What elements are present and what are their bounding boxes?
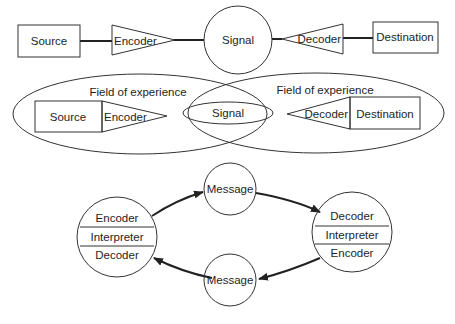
- left-encoder-label: Encoder: [96, 212, 139, 224]
- arrow-top-message-to-right: [256, 193, 320, 212]
- source-label: Source: [50, 111, 86, 123]
- communication-models-diagram: Source Encoder Signal Decoder Destinatio…: [0, 0, 455, 324]
- decoder-label: Decoder: [305, 108, 349, 120]
- right-field-label: Field of experience: [276, 84, 373, 96]
- field-of-experience-model: Field of experience Field of experience …: [13, 73, 444, 154]
- interactive-model: Encoder Interpreter Decoder Decoder Inte…: [77, 163, 392, 306]
- right-encoder-label: Encoder: [331, 247, 374, 259]
- destination-label: Destination: [376, 31, 434, 43]
- arrow-right-to-bottom-message: [259, 258, 320, 279]
- source-label: Source: [31, 35, 67, 47]
- left-interpreter-label: Interpreter: [90, 231, 143, 243]
- signal-label: Signal: [212, 107, 244, 119]
- right-interpreter-label: Interpreter: [325, 229, 378, 241]
- right-decoder-label: Decoder: [330, 210, 374, 222]
- signal-label: Signal: [222, 34, 254, 46]
- encoder-label: Encoder: [114, 35, 157, 47]
- linear-model: Source Encoder Signal Decoder Destinatio…: [18, 6, 438, 74]
- destination-label: Destination: [356, 108, 414, 120]
- left-decoder-label: Decoder: [95, 249, 139, 261]
- bottom-message-label: Message: [207, 274, 254, 286]
- decoder-label: Decoder: [298, 33, 342, 45]
- arrow-left-to-top-message: [152, 192, 203, 216]
- encoder-label: Encoder: [104, 111, 147, 123]
- arrow-bottom-message-to-left: [154, 258, 212, 278]
- left-field-label: Field of experience: [89, 86, 186, 98]
- top-message-label: Message: [207, 183, 254, 195]
